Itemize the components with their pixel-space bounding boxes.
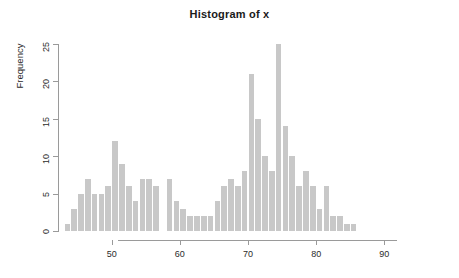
histogram-bar [112,141,118,231]
histogram-bar [126,186,132,231]
histogram-bar [71,209,77,231]
histogram-bar [337,216,343,231]
histogram-bar [167,179,173,231]
histogram-bar [351,224,357,231]
histogram-bar [201,216,207,231]
histogram-bar [235,186,241,231]
histogram-bar [140,179,146,231]
histogram-bar [249,74,255,231]
histogram-bar [85,179,91,231]
histogram-bar [269,171,275,231]
histogram-bar [221,186,227,231]
histogram-bar [255,119,261,231]
histogram-bar [330,216,336,231]
histogram-bar [317,209,323,231]
histogram-bar [228,179,234,231]
histogram-bar [187,216,193,231]
histogram-bar [276,44,282,231]
histogram-bar [296,186,302,231]
histogram-bars [0,0,459,278]
histogram-bar [303,171,309,231]
histogram-bar [310,186,316,231]
histogram-bar [78,194,84,231]
histogram-bar [283,126,289,231]
histogram-plot: Histogram of x Frequency 0510152025 5060… [0,0,459,278]
histogram-bar [92,194,98,231]
histogram-bar [133,201,139,231]
histogram-bar [99,194,105,231]
histogram-bar [194,216,200,231]
histogram-bar [119,164,125,231]
histogram-bar [208,216,214,231]
histogram-bar [65,224,71,231]
histogram-bar [262,156,268,231]
histogram-bar [174,201,180,231]
histogram-bar [180,209,186,231]
histogram-bar [146,179,152,231]
histogram-bar [242,171,248,231]
plot-panel: 0510152025 5060708090 [0,0,459,278]
histogram-bar [105,186,111,231]
histogram-bar [344,224,350,231]
histogram-bar [289,156,295,231]
histogram-bar [153,186,159,231]
histogram-bar [215,201,221,231]
histogram-bar [324,186,330,231]
